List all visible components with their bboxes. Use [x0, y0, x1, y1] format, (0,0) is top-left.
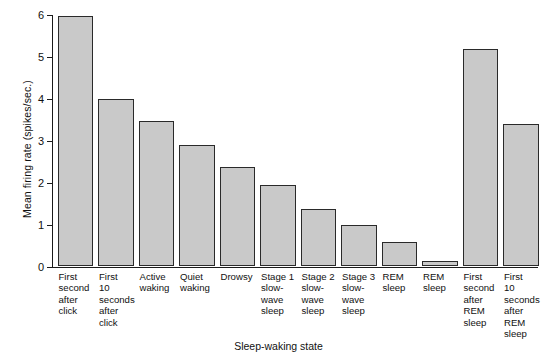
y-tick-label: 0 [38, 262, 44, 273]
bar [260, 185, 296, 266]
category-label: First 10 seconds after click [99, 271, 142, 328]
category-label: Drowsy [221, 271, 264, 282]
y-axis-title: Mean firing rate (spikes/sec.) [21, 39, 33, 259]
x-axis-line [52, 267, 538, 268]
bar [98, 99, 134, 266]
y-tick-mark [47, 99, 52, 100]
y-tick-label: 2 [38, 178, 44, 189]
y-tick-label: 3 [38, 136, 44, 147]
y-tick-mark [47, 225, 52, 226]
bar [503, 124, 539, 266]
category-label: REM sleep [383, 271, 426, 294]
y-axis-line [52, 15, 53, 268]
y-tick-label: 4 [38, 94, 44, 105]
category-label: Active waking [140, 271, 183, 294]
category-label: First second after click [59, 271, 102, 317]
category-label: First second after REM sleep [464, 271, 507, 328]
bar [301, 209, 337, 266]
bar-chart-figure: Mean firing rate (spikes/sec.) 0123456 F… [0, 0, 557, 361]
y-tick-mark [47, 183, 52, 184]
category-label: Stage 3 slow- wave sleep [342, 271, 385, 317]
x-axis-title: Sleep-waking state [0, 340, 557, 352]
bar [179, 145, 215, 266]
y-tick-mark [47, 141, 52, 142]
bar [58, 16, 94, 266]
category-label: Stage 2 slow- wave sleep [302, 271, 345, 317]
y-tick-label: 5 [38, 52, 44, 63]
bar [139, 121, 175, 266]
y-tick-label: 1 [38, 220, 44, 231]
category-label: Quiet waking [180, 271, 223, 294]
bar [220, 167, 256, 266]
bar [463, 49, 499, 266]
bar [341, 225, 377, 266]
y-tick-label: 6 [38, 10, 44, 21]
plot-area: 0123456 [52, 15, 538, 267]
y-tick-mark [47, 57, 52, 58]
category-label: First 10 seconds after REM sleep [504, 271, 547, 339]
y-tick-mark [47, 15, 52, 16]
category-label: REM sleep [423, 271, 466, 294]
bar [422, 261, 458, 266]
y-tick-mark [47, 267, 52, 268]
category-label: Stage 1 slow- wave sleep [261, 271, 304, 317]
bar [382, 242, 418, 266]
